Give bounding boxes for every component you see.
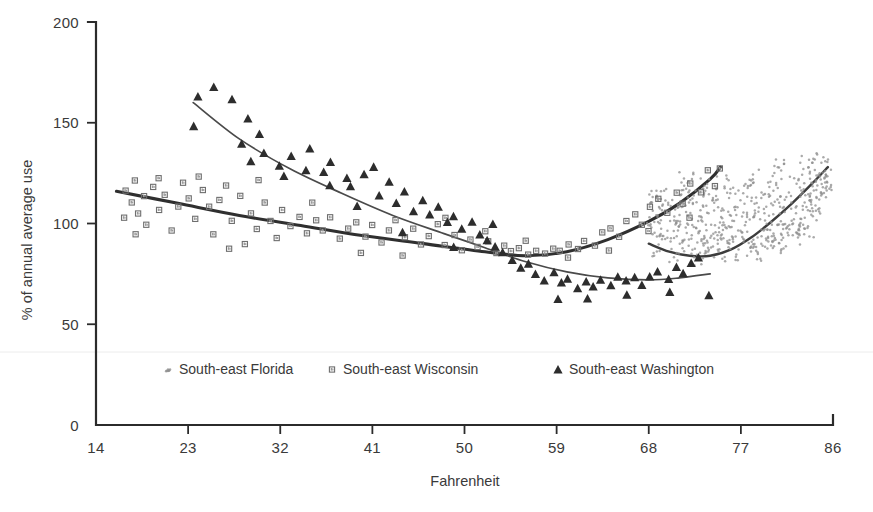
data-point-dot: [731, 220, 734, 223]
data-point-dot: [682, 189, 685, 192]
data-point-dot: [653, 221, 656, 224]
data-point-dot: [718, 231, 721, 234]
data-point-dot: [769, 229, 772, 232]
data-point-dot: [660, 227, 663, 230]
data-point-dot: [716, 198, 719, 201]
data-point-dot: [657, 243, 660, 246]
data-point-dot: [699, 252, 702, 255]
data-point-dot: [753, 203, 756, 206]
legend-item-south-east-wisconsin[interactable]: South-east Wisconsin: [329, 361, 478, 377]
data-point-dot: [792, 234, 795, 237]
data-point-dot: [676, 206, 679, 209]
data-point-dot: [793, 218, 796, 221]
data-point-dot: [651, 255, 654, 258]
data-point-dot: [750, 179, 753, 182]
data-point-dot: [694, 247, 697, 250]
data-point-dot: [752, 181, 755, 184]
data-point-dot: [765, 223, 768, 226]
data-point-dot: [811, 185, 814, 188]
data-point-dot: [756, 258, 759, 261]
data-point-dot: [789, 175, 792, 178]
data-point-dot: [663, 190, 666, 193]
x-tick-label: 77: [732, 439, 749, 456]
data-point-dot: [768, 214, 771, 217]
data-point-dot: [776, 198, 779, 201]
data-point-dot: [723, 256, 726, 259]
data-point-dot: [750, 240, 753, 243]
data-point-dot: [780, 234, 783, 237]
data-point-dot: [824, 181, 827, 184]
data-point-dot: [812, 236, 815, 239]
data-point-dot: [673, 256, 676, 259]
data-point-dot: [775, 158, 778, 161]
data-point-dot: [691, 197, 694, 200]
data-point-dot: [653, 231, 656, 234]
data-point-dot: [717, 206, 720, 209]
data-point-dot: [767, 236, 770, 239]
data-point-dot: [818, 207, 821, 210]
data-point-dot: [790, 219, 793, 222]
data-point-dot: [799, 161, 802, 164]
data-point-dot: [652, 252, 655, 255]
legend-label: South-east Florida: [179, 361, 294, 377]
data-point-dot: [780, 178, 783, 181]
data-point-dot: [704, 250, 707, 253]
data-point-dot: [809, 192, 812, 195]
data-point-dot: [737, 248, 740, 251]
data-point-dot: [719, 221, 722, 224]
data-point-dot: [673, 237, 676, 240]
data-point-dot: [702, 205, 705, 208]
data-point-dot: [775, 182, 778, 185]
data-point-dot: [650, 190, 653, 193]
data-point-dot: [649, 223, 652, 226]
data-point-dot: [769, 181, 772, 184]
data-point-dot: [666, 236, 669, 239]
data-point-dot: [658, 235, 661, 238]
data-point-dot: [755, 202, 758, 205]
data-point-dot: [683, 185, 686, 188]
data-point-dot: [721, 233, 724, 236]
x-tick-label: 59: [548, 439, 565, 456]
data-point-dot: [771, 235, 774, 238]
data-point-dot: [780, 220, 783, 223]
data-point-dot: [717, 250, 720, 253]
data-point-dot: [737, 189, 740, 192]
data-point-dot: [682, 240, 685, 243]
data-point-dot: [718, 227, 721, 230]
data-point-dot: [741, 215, 744, 218]
data-point-dot: [743, 203, 746, 206]
data-point-dot: [815, 152, 818, 155]
data-point-dot: [798, 234, 801, 237]
data-point-dot: [661, 209, 664, 212]
data-point-dot: [727, 246, 730, 249]
legend-item-south-east-washington[interactable]: South-east Washington: [553, 361, 714, 377]
data-point-dot: [741, 236, 744, 239]
legend-item-south-east-florida[interactable]: South-east Florida: [165, 361, 294, 377]
data-point-dot: [701, 220, 704, 223]
data-point-dot: [669, 220, 672, 223]
data-point-dot: [760, 228, 763, 231]
data-point-dot: [713, 237, 716, 240]
data-point-dot: [825, 173, 828, 176]
data-point-dot: [752, 173, 755, 176]
data-point-dot: [772, 232, 775, 235]
data-point-dot: [766, 247, 769, 250]
data-point-dot: [788, 228, 791, 231]
data-point-dot: [771, 175, 774, 178]
data-point-dot: [722, 209, 725, 212]
data-point-dot: [802, 168, 805, 171]
data-point-dot: [776, 224, 779, 227]
data-point-dot: [746, 231, 749, 234]
data-point-dot: [745, 221, 748, 224]
data-point-dot: [691, 249, 694, 252]
data-point-dot: [805, 206, 808, 209]
data-point-dot: [783, 163, 786, 166]
data-point-dot: [782, 237, 785, 240]
x-tick-label: 86: [824, 439, 841, 456]
data-point-dot: [658, 250, 661, 253]
data-point-dot: [723, 185, 726, 188]
data-point-dot: [722, 229, 725, 232]
data-point-dot: [772, 204, 775, 207]
data-point-dot: [729, 192, 732, 195]
data-point-dot: [762, 229, 765, 232]
